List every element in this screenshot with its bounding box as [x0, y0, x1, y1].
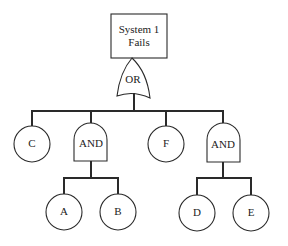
basic-event-f-label: F: [163, 137, 169, 149]
and-gate-right-label: AND: [211, 138, 235, 150]
basic-event-b-label: B: [114, 205, 121, 217]
basic-event-d: D: [179, 195, 215, 231]
basic-event-a-label: A: [60, 205, 68, 217]
fault-tree-diagram: System 1 Fails OR C AND F AND: [0, 0, 288, 246]
basic-event-f: F: [148, 126, 184, 162]
top-event-box: System 1 Fails: [111, 14, 167, 58]
top-event-line1: System 1: [119, 23, 160, 35]
or-gate-label: OR: [125, 73, 141, 85]
basic-event-b: B: [100, 194, 136, 230]
and-gate-left: AND: [74, 123, 107, 161]
basic-event-a: A: [46, 194, 82, 230]
or-gate: OR: [117, 58, 150, 111]
basic-event-e: E: [233, 195, 269, 231]
basic-event-d-label: D: [193, 206, 201, 218]
basic-event-c: C: [14, 126, 50, 162]
basic-event-c-label: C: [28, 137, 35, 149]
top-event-line2: Fails: [128, 36, 149, 48]
and-gate-right: AND: [207, 123, 240, 162]
and-gate-left-label: AND: [79, 137, 103, 149]
fault-tree-svg: System 1 Fails OR C AND F AND: [0, 0, 288, 246]
basic-event-e-label: E: [248, 206, 255, 218]
